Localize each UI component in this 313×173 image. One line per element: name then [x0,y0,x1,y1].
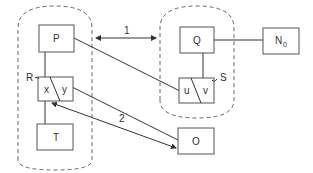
node-o-label: O [192,136,200,147]
node-n-label: N [275,35,282,46]
label-r: R [26,72,33,83]
arrow-2-label: 2 [119,113,125,124]
node-q-label: Q [193,35,201,46]
node-v-label: v [203,85,208,96]
label-s: S [220,72,227,83]
r-pointer [35,77,39,79]
node-t-label: T [53,132,59,143]
p-to-u-line [74,38,180,91]
node-p-label: P [53,33,60,44]
node-n0[interactable]: N 0 [263,28,299,54]
diagram-canvas: 1 2 P x y R T Q u v S N 0 O [0,0,313,173]
node-uv[interactable]: u v [179,78,214,103]
node-xy[interactable]: x y [38,77,73,101]
node-t[interactable]: T [37,124,73,150]
node-n-subscript: 0 [283,41,287,48]
node-o[interactable]: O [178,128,214,154]
node-y-label: y [62,84,67,95]
node-p[interactable]: P [39,25,74,52]
y-to-o-line [72,87,178,140]
node-u-label: u [184,85,190,96]
arrow-1-label: 1 [124,25,130,36]
node-q[interactable]: Q [180,27,214,53]
node-x-label: x [44,84,49,95]
